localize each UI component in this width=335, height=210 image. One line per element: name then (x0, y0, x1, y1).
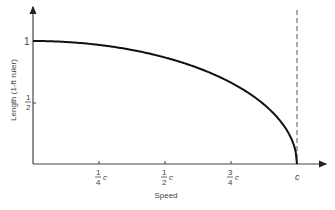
svg-text:4: 4 (96, 178, 101, 187)
x-tick-label-half: 1 2 c (161, 168, 173, 187)
svg-text:2: 2 (162, 178, 167, 187)
x-axis-title: Speed (154, 191, 177, 200)
x-tick-label-c: c (295, 172, 300, 182)
svg-text:c: c (235, 173, 239, 182)
y-axis-title: Length (1-ft ruler) (9, 59, 18, 121)
svg-text:c: c (103, 173, 107, 182)
chart: 1 1 2 1 4 c 1 2 c 3 4 c c Speed Length (… (0, 0, 335, 210)
svg-text:1: 1 (162, 168, 167, 177)
x-tick-label-three-quarter: 3 4 c (227, 168, 239, 187)
y-tick-label-1: 1 (24, 36, 30, 47)
length-curve (33, 41, 297, 164)
svg-text:c: c (169, 173, 173, 182)
svg-text:3: 3 (228, 168, 233, 177)
y-tick-label-half-den: 2 (26, 103, 31, 112)
svg-text:1: 1 (96, 168, 101, 177)
svg-text:4: 4 (228, 178, 233, 187)
x-tick-label-quarter: 1 4 c (95, 168, 107, 187)
y-tick-label-half-num: 1 (26, 93, 31, 102)
